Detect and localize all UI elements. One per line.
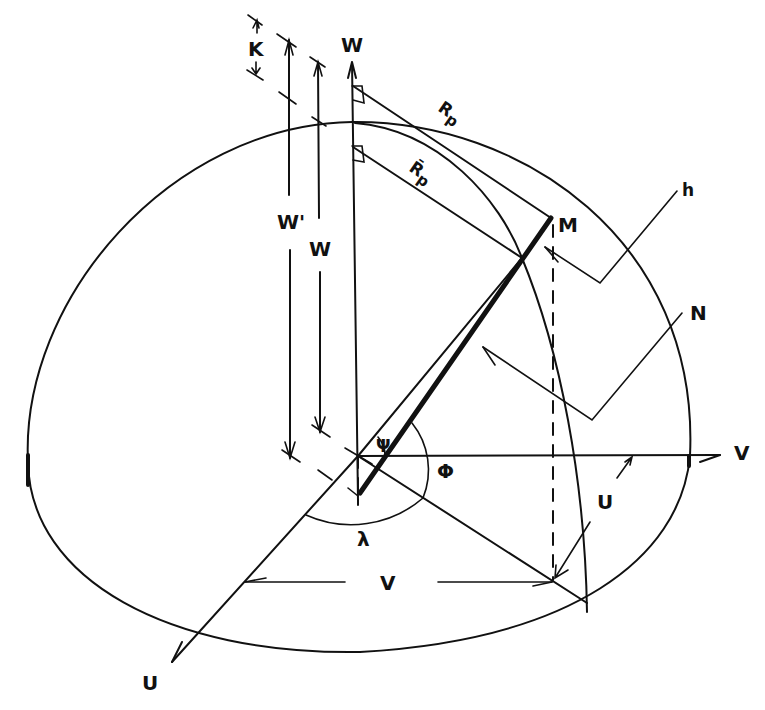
ellipsoid-outline [28, 122, 691, 652]
label-w-prime: W' [277, 210, 305, 234]
label-u-axis: U [142, 671, 158, 695]
n-callout-leader [483, 313, 682, 420]
phi-arc [412, 423, 428, 498]
lambda-arc [306, 498, 423, 525]
label-psi: Ψ [376, 436, 390, 456]
label-v-axis: V [734, 441, 750, 465]
n-callout-arrowhead [483, 347, 495, 365]
w-dimension-upper-line [318, 62, 319, 218]
label-k: K [248, 37, 265, 61]
k-dimension-bottom-arrow [252, 62, 260, 74]
label-h: h [682, 180, 694, 200]
label-lambda: λ [357, 527, 370, 551]
ellipsoid-diagram: W K W' W Rp R̄p M h N Ψ Φ λ V U V U [0, 0, 765, 710]
rp-bar-line [353, 147, 522, 258]
label-w-axis: W [341, 33, 363, 57]
u-axis-cross-tick [318, 470, 332, 480]
k-dimension-top-arrow [253, 20, 259, 33]
label-m: M [558, 213, 578, 237]
u-axis [172, 456, 358, 662]
v-axis-arrowhead [700, 455, 720, 462]
label-phi: Φ [437, 459, 454, 483]
v-axis [358, 455, 720, 456]
w-prime-dimension-mid-tick [279, 92, 296, 104]
w-prime-dimension-top-tick [277, 34, 296, 47]
label-rp: Rp [432, 97, 466, 131]
label-n: N [690, 301, 707, 325]
h-callout-leader [545, 191, 677, 283]
label-rp-bar: R̄p [403, 156, 438, 191]
lower-point-tick [348, 488, 358, 496]
label-u-small: U [597, 490, 613, 514]
label-w: W [309, 237, 331, 261]
w-axis [352, 62, 358, 500]
label-v-dimension: V [380, 571, 396, 595]
v-axis-small-arrow [617, 457, 632, 478]
